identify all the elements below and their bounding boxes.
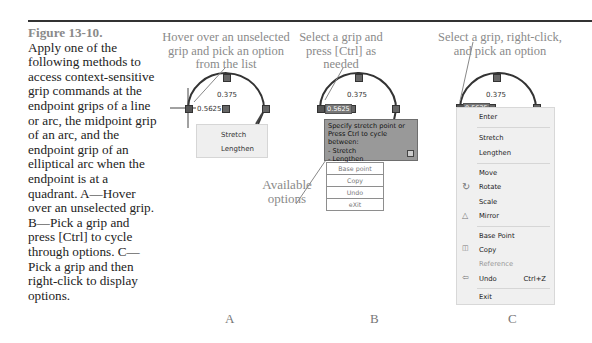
dim-top-b: 0.375	[347, 91, 367, 99]
grip-top-a[interactable]	[223, 74, 231, 82]
menu-item-exit[interactable]: Exit	[479, 293, 492, 301]
grip-top-b[interactable]	[355, 74, 363, 82]
grip-right-b[interactable]	[392, 105, 400, 113]
menu-item-reference[interactable]: Reference	[479, 260, 513, 268]
panel-label-c: C	[508, 311, 517, 327]
dim-top-c: 0.375	[486, 91, 506, 99]
menu-item-enter[interactable]: Enter	[479, 113, 497, 121]
menu-separator	[477, 163, 550, 164]
tooltip-line-1: Specify stretch point or	[328, 122, 414, 130]
list-item-exit[interactable]: eXit	[326, 198, 384, 211]
dim-input-b[interactable]: 0.5625	[325, 104, 352, 114]
menu-item-rotate[interactable]: Rotate	[479, 183, 501, 191]
mirror-icon: △	[462, 211, 468, 220]
menu-item-lengthen[interactable]: Lengthen	[479, 149, 511, 157]
context-menu-c: Enter Stretch Lengthen Move ↻ Rotate Sca…	[456, 107, 555, 305]
menu-separator	[477, 226, 550, 227]
menu-item-base-point[interactable]: Base Point	[479, 232, 515, 240]
grip-center-a[interactable]	[222, 105, 230, 113]
menu-separator	[477, 288, 550, 289]
cycle-tooltip-b: Specify stretch point or Press Ctrl to c…	[324, 119, 418, 161]
tooltip-line-2: Press Ctrl to cycle between:	[328, 130, 414, 146]
option-list-b: Base point Copy Undo eXit	[326, 163, 384, 211]
tooltip-option-stretch: - Stretch	[328, 147, 414, 155]
dim-left-a: 0.5625	[197, 105, 222, 113]
rotate-icon: ↻	[462, 181, 470, 192]
dim-top-a: 0.375	[217, 91, 237, 99]
tooltip-expand-icon[interactable]	[407, 150, 414, 157]
grip-menu-a: Stretch Lengthen	[196, 124, 268, 158]
menu-item-lengthen[interactable]: Lengthen	[221, 145, 254, 153]
grip-top-c[interactable]	[493, 74, 501, 82]
menu-item-undo[interactable]: Undo	[479, 275, 497, 283]
copy-icon: ◫	[462, 244, 469, 252]
callout-c: Select a grip, right-click, and pick an …	[430, 31, 570, 58]
menu-item-stretch[interactable]: Stretch	[221, 131, 246, 139]
grip-right-a[interactable]	[262, 105, 270, 113]
grip-endpoint-a[interactable]	[185, 105, 193, 113]
menu-item-mirror[interactable]: Mirror	[479, 212, 499, 220]
callout-a: Hover over an unselected grip and pick a…	[162, 31, 290, 72]
callout-b: Select a grip and press [Ctrl] as needed	[296, 31, 386, 72]
menu-item-scale[interactable]: Scale	[479, 198, 497, 206]
menu-separator	[477, 127, 550, 128]
grip-endpoint-b[interactable]	[317, 105, 325, 113]
undo-shortcut: Ctrl+Z	[524, 275, 546, 283]
callout-available-options: Available options	[254, 178, 320, 205]
panel-label-a: A	[225, 311, 234, 327]
menu-item-stretch[interactable]: Stretch	[479, 134, 504, 142]
menu-item-copy[interactable]: Copy	[479, 246, 496, 254]
menu-item-move[interactable]: Move	[479, 169, 497, 177]
panel-label-b: B	[370, 311, 379, 327]
undo-icon: ⇦	[462, 273, 469, 282]
